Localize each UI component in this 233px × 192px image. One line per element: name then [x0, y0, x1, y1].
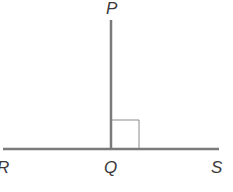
diagram-canvas: P R Q S	[0, 0, 233, 192]
label-s: S	[211, 158, 223, 177]
right-angle-marker	[112, 120, 139, 148]
label-p: P	[106, 0, 118, 18]
label-q: Q	[104, 158, 117, 177]
label-r: R	[0, 158, 9, 177]
